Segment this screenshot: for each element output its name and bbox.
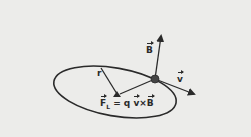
velocity-label: v bbox=[177, 75, 183, 84]
center-marker bbox=[113, 91, 121, 97]
velocity-arrow bbox=[155, 79, 194, 94]
orbit-ellipse bbox=[50, 58, 180, 127]
lorentz-force-equation: FL = q v×B bbox=[100, 99, 154, 110]
equals-q: = q bbox=[113, 98, 130, 108]
particle-dot bbox=[151, 75, 159, 83]
b-field-label: B bbox=[146, 46, 153, 55]
eq-b-field: B bbox=[147, 99, 154, 108]
cross-symbol: × bbox=[139, 98, 147, 108]
radius-label: r bbox=[97, 69, 101, 78]
radius-line bbox=[101, 68, 117, 94]
lorentz-force-diagram: r B v FL = q v×B bbox=[0, 0, 251, 137]
b-field-label-text: B bbox=[146, 46, 153, 55]
force-symbol: F bbox=[100, 99, 106, 108]
b-field-arrow bbox=[155, 36, 161, 79]
velocity-label-text: v bbox=[177, 75, 183, 84]
diagram-graphics bbox=[0, 0, 251, 137]
eq-velocity: v bbox=[133, 99, 139, 108]
force-vector-line bbox=[120, 79, 155, 94]
force-subscript: L bbox=[106, 103, 110, 110]
